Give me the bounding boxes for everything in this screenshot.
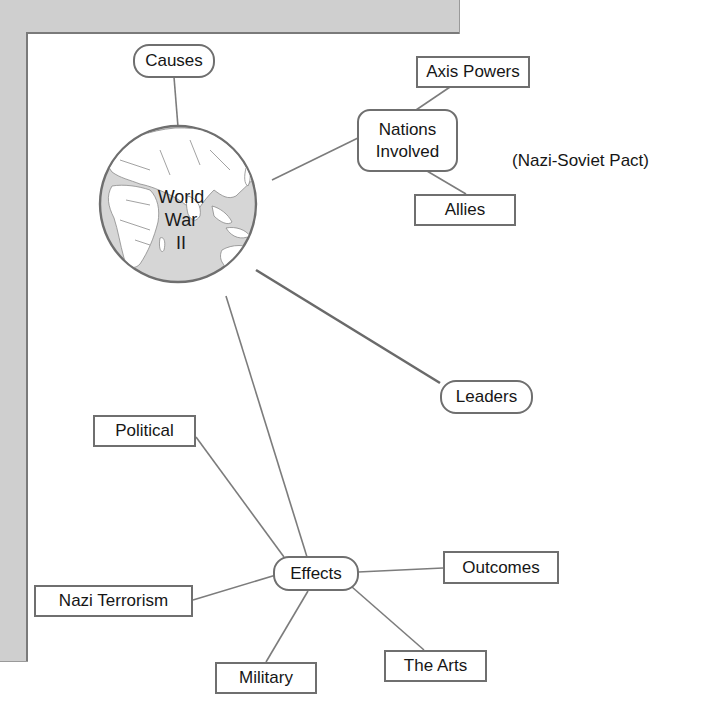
annotation-nazi-soviet-pact: (Nazi-Soviet Pact) bbox=[512, 151, 649, 171]
node-causes-label: Causes bbox=[145, 51, 203, 71]
node-nazi-terrorism[interactable]: Nazi Terrorism bbox=[34, 585, 193, 617]
node-military-label: Military bbox=[239, 668, 293, 688]
node-axis-powers-label: Axis Powers bbox=[426, 62, 520, 82]
node-military[interactable]: Military bbox=[215, 662, 317, 694]
node-political-label: Political bbox=[115, 421, 174, 441]
center-label-line2: War bbox=[136, 209, 226, 232]
node-political[interactable]: Political bbox=[93, 415, 196, 447]
node-nations-line1: Nations bbox=[376, 119, 439, 141]
connector-lines bbox=[0, 0, 717, 728]
link-political bbox=[196, 437, 284, 557]
link-leaders bbox=[256, 270, 440, 383]
node-effects-label: Effects bbox=[290, 564, 342, 584]
link-allies bbox=[427, 171, 466, 194]
link-the-arts bbox=[352, 587, 424, 650]
node-the-arts-label: The Arts bbox=[404, 656, 467, 676]
center-label-line1: World bbox=[136, 186, 226, 209]
link-nations bbox=[272, 137, 360, 180]
node-nazi-terrorism-label: Nazi Terrorism bbox=[59, 591, 168, 611]
center-label-line3: II bbox=[136, 232, 226, 255]
node-allies[interactable]: Allies bbox=[414, 194, 516, 226]
node-leaders[interactable]: Leaders bbox=[440, 380, 533, 414]
node-axis-powers[interactable]: Axis Powers bbox=[416, 56, 530, 88]
node-outcomes[interactable]: Outcomes bbox=[443, 551, 559, 584]
node-nations-involved[interactable]: Nations Involved bbox=[357, 109, 458, 172]
link-outcomes bbox=[358, 568, 443, 572]
node-nations-line2: Involved bbox=[376, 141, 439, 163]
node-allies-label: Allies bbox=[445, 200, 486, 220]
link-causes bbox=[174, 77, 178, 127]
node-leaders-label: Leaders bbox=[456, 387, 517, 407]
link-axis-powers bbox=[416, 87, 450, 110]
link-nazi-terrorism bbox=[193, 575, 276, 600]
node-effects[interactable]: Effects bbox=[273, 556, 359, 591]
node-the-arts[interactable]: The Arts bbox=[384, 650, 487, 682]
center-topic-label: World War II bbox=[136, 186, 226, 255]
concept-web-diagram: World War II Causes Nations Involved Axi… bbox=[0, 0, 717, 728]
link-effects bbox=[226, 296, 307, 557]
link-military bbox=[266, 591, 308, 662]
node-causes[interactable]: Causes bbox=[133, 44, 215, 78]
node-outcomes-label: Outcomes bbox=[462, 558, 539, 578]
